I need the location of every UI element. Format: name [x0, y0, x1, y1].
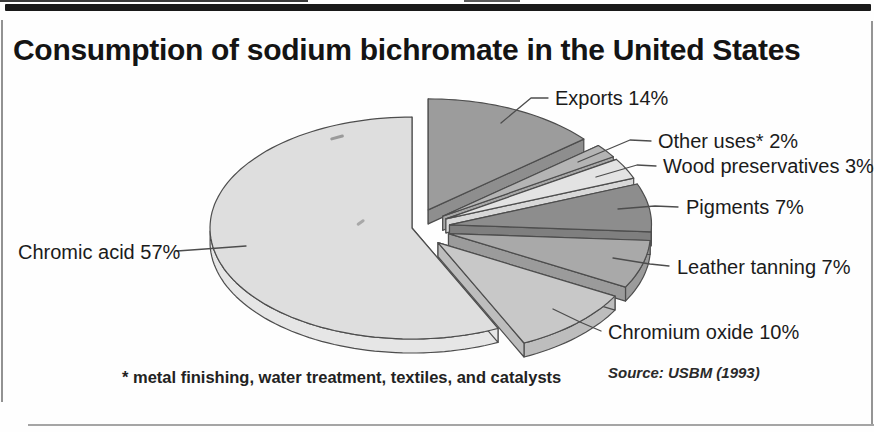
slice-label-exports-14: Exports 14% — [555, 87, 669, 109]
slice-label-pigments-7: Pigments 7% — [686, 196, 804, 218]
slice-label-other-uses-2: Other uses* 2% — [658, 130, 798, 152]
slice-label-leather-tanning-7: Leather tanning 7% — [677, 256, 851, 278]
slice-label-chromic-acid-57: Chromic acid 57% — [18, 241, 181, 263]
slice-label-wood-preservatives-3: Wood preservatives 3% — [663, 155, 874, 177]
figure-page: Consumption of sodium bichromate in the … — [0, 0, 874, 432]
source-note: Source: USBM (1993) — [608, 364, 760, 381]
footnote: * metal finishing, water treatment, text… — [122, 368, 561, 387]
slice-label-chromium-oxide-10: Chromium oxide 10% — [608, 321, 799, 343]
